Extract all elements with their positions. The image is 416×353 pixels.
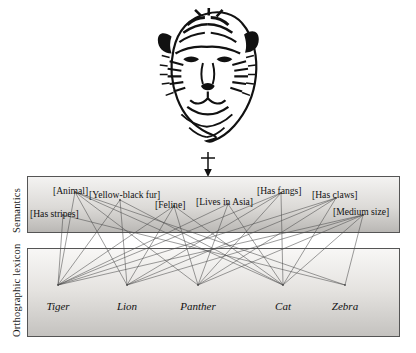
semantic-feature-yellow_black_fur[interactable]: [Yellow-black fur] bbox=[89, 190, 160, 200]
input-arrow bbox=[201, 152, 215, 177]
orthographic-lexicon-layer-box bbox=[28, 249, 400, 337]
lexicon-node-cat[interactable] bbox=[282, 284, 284, 286]
orthographic-lexicon-layer-caption: Orthographic lexicon bbox=[11, 243, 22, 337]
lexicon-word-cat[interactable]: Cat bbox=[275, 301, 291, 312]
lexicon-word-panther[interactable]: Panther bbox=[180, 301, 215, 312]
tiger-head-illustration bbox=[158, 8, 259, 142]
semantics-layer-caption: Semantics bbox=[11, 188, 22, 233]
semantic-feature-has_claws[interactable]: [Has claws] bbox=[312, 190, 358, 200]
lexicon-word-lion[interactable]: Lion bbox=[117, 301, 137, 312]
semantic-feature-feline[interactable]: [Feline] bbox=[155, 200, 185, 210]
semantic-feature-has_fangs[interactable]: [Has fangs] bbox=[257, 186, 302, 196]
lexicon-node-tiger[interactable] bbox=[57, 284, 59, 286]
figure-root: Semantics Orthographic lexicon [Has stri… bbox=[0, 0, 416, 353]
semantic-feature-has_stripes[interactable]: [Has stripes] bbox=[30, 209, 79, 219]
semantic-feature-lives_in_asia[interactable]: [Lives in Asia] bbox=[196, 197, 253, 207]
semantic-feature-animal[interactable]: [Animal] bbox=[53, 186, 88, 196]
lexicon-node-zebra[interactable] bbox=[344, 284, 346, 286]
lexicon-word-zebra[interactable]: Zebra bbox=[332, 301, 358, 312]
lexicon-node-lion[interactable] bbox=[126, 284, 128, 286]
semantic-feature-medium_size[interactable]: [Medium size] bbox=[333, 207, 389, 217]
lexicon-word-tiger[interactable]: Tiger bbox=[46, 301, 69, 312]
lexicon-node-panther[interactable] bbox=[197, 284, 199, 286]
